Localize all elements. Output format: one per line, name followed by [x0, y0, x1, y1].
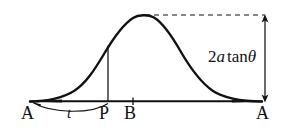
height-variable: a	[217, 47, 226, 66]
figure-drawing	[0, 0, 300, 134]
height-function: tan	[227, 47, 248, 66]
label-b: B	[124, 104, 136, 122]
height-number: 2	[208, 47, 217, 66]
height-angle: θ	[248, 47, 256, 66]
label-a-right: A	[256, 104, 269, 122]
label-height-dimension: 2atanθ	[208, 48, 256, 65]
label-a-left: A	[21, 104, 34, 122]
label-t: t	[67, 106, 71, 121]
figure-container: A t P B A 2atanθ	[0, 0, 300, 134]
label-p: P	[99, 104, 109, 122]
